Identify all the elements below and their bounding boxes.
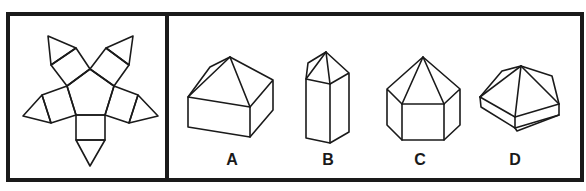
net-triangle-left — [23, 95, 51, 123]
option-a-label[interactable]: A — [217, 152, 247, 168]
option-d-figure[interactable] — [480, 66, 559, 131]
net-square-bottom — [76, 115, 105, 140]
option-c-figure[interactable] — [387, 57, 460, 140]
net-square-left — [42, 86, 76, 123]
net-triangle-bottom — [76, 140, 105, 166]
net-triangle-right — [129, 95, 158, 123]
option-b-label[interactable]: B — [313, 152, 343, 168]
net-triangle-top-left — [48, 36, 76, 65]
figures-svg — [0, 0, 586, 191]
option-d-label[interactable]: D — [500, 152, 530, 168]
option-a-figure[interactable] — [188, 57, 273, 137]
pentagon-net — [23, 36, 158, 166]
net-triangle-top-right — [106, 36, 133, 65]
net-square-right — [105, 86, 138, 123]
option-c-label[interactable]: C — [405, 152, 435, 168]
option-b-figure[interactable] — [306, 52, 349, 143]
net-square-top-left — [51, 48, 90, 86]
puzzle-figure: A B C D — [0, 0, 586, 191]
net-square-top-right — [90, 48, 129, 86]
